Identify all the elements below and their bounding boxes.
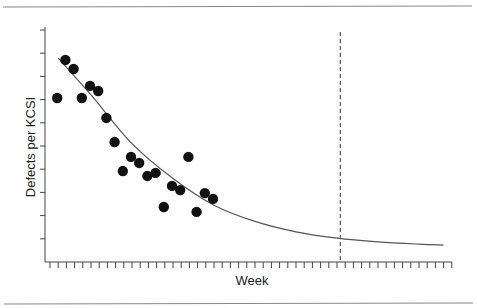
data-point [175,185,185,195]
y-axis-ticks [40,30,45,239]
bottom-rule [4,303,473,304]
data-point [101,113,111,123]
x-axis-ticks [50,262,452,268]
data-point [52,93,62,103]
y-axis-label: Defects per KCSI [23,97,38,197]
axes [45,27,452,262]
data-point [150,168,160,178]
defects-chart: Week Defects per KCSI [0,0,477,308]
data-point [183,152,193,162]
top-rule [3,6,472,7]
data-point [191,207,201,217]
data-point [134,158,144,168]
data-point [208,194,218,204]
data-point [109,137,119,147]
fitted-curve-line [58,58,443,245]
data-point [77,93,87,103]
fitted-curve [58,58,443,245]
data-point [68,64,78,74]
data-point [60,55,70,65]
data-point [118,166,128,176]
x-axis-label: Week [236,273,269,288]
data-point [93,86,103,96]
data-point [159,202,169,212]
